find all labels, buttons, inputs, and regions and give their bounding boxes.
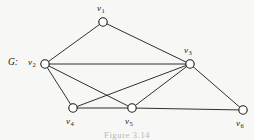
- node-layer: [41, 18, 247, 114]
- node-label-subscript: 2: [33, 61, 36, 68]
- graph-edge-v3-v6: [193, 67, 240, 108]
- node-label-letter: v: [97, 3, 101, 13]
- node-label-letter: v: [28, 57, 32, 67]
- node-label-letter: v: [236, 118, 240, 128]
- node-label-subscript: 1: [102, 7, 105, 14]
- node-label-subscript: 4: [71, 120, 74, 127]
- graph-node-label-v1: v1: [97, 4, 105, 13]
- node-label-subscript: 5: [130, 120, 133, 127]
- graph-node-v2: [41, 60, 49, 68]
- figure-caption: Figure 3.14: [0, 131, 254, 140]
- node-label-letter: v: [66, 116, 70, 126]
- graph-edge-v2-v4: [47, 68, 71, 105]
- graph-edge-v1-v3: [107, 24, 186, 62]
- graph-node-label-v5: v5: [125, 117, 133, 126]
- graph-edge-v5-v6: [136, 108, 239, 110]
- graph-edge-v2-v5: [49, 66, 129, 106]
- graph-node-v6: [239, 106, 247, 114]
- node-label-subscript: 3: [189, 49, 192, 56]
- graph-node-v5: [128, 104, 136, 112]
- graph-node-label-v3: v3: [184, 46, 192, 55]
- graph-node-v3: [186, 60, 194, 68]
- graph-node-v4: [69, 104, 77, 112]
- edge-layer: [47, 24, 240, 110]
- graph-edge-v3-v5: [135, 67, 186, 106]
- graph-edge-v1-v2: [48, 24, 99, 61]
- node-label-letter: v: [125, 116, 129, 126]
- graph-node-label-v4: v4: [66, 117, 74, 126]
- graph-figure: G: v1v2v3v4v5v6 Figure 3.14: [0, 0, 254, 140]
- graph-node-v1: [99, 18, 107, 26]
- graph-node-label-v2: v2: [28, 58, 36, 67]
- graph-edge-v3-v4: [77, 65, 186, 106]
- graph-node-label-v6: v6: [236, 119, 244, 128]
- node-label-letter: v: [184, 45, 188, 55]
- node-label-subscript: 6: [241, 122, 244, 129]
- graph-name-label: G:: [8, 58, 18, 68]
